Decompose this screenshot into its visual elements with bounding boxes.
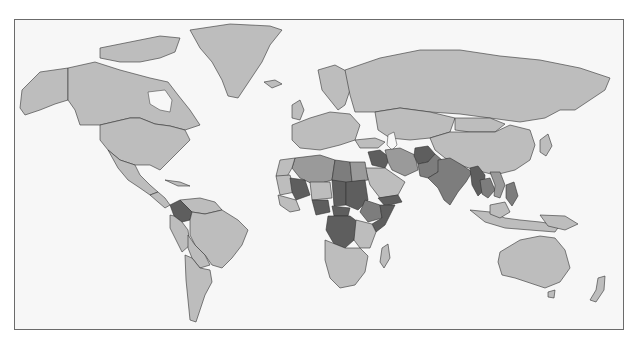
cuba[interactable] bbox=[165, 180, 190, 186]
australia[interactable] bbox=[498, 236, 570, 288]
turkey[interactable] bbox=[355, 138, 385, 148]
arctic-islands[interactable] bbox=[100, 36, 180, 62]
iceland[interactable] bbox=[264, 80, 282, 88]
south-america bbox=[170, 198, 248, 322]
central-america[interactable] bbox=[150, 192, 170, 208]
western-europe[interactable] bbox=[292, 112, 360, 150]
japan[interactable] bbox=[540, 134, 552, 156]
north-america bbox=[20, 36, 200, 208]
egypt[interactable] bbox=[350, 162, 368, 182]
world-map bbox=[0, 0, 636, 347]
new-zealand[interactable] bbox=[590, 276, 605, 302]
uk-ireland[interactable] bbox=[292, 100, 304, 120]
alaska[interactable] bbox=[20, 68, 68, 115]
niger[interactable] bbox=[310, 182, 332, 200]
nigeria[interactable] bbox=[312, 200, 330, 215]
tasmania[interactable] bbox=[548, 290, 555, 298]
madagascar[interactable] bbox=[380, 244, 390, 268]
greenland[interactable] bbox=[190, 24, 282, 98]
philippines[interactable] bbox=[506, 182, 518, 206]
mongolia[interactable] bbox=[455, 118, 505, 132]
thailand[interactable] bbox=[480, 178, 495, 198]
central-african-republic[interactable] bbox=[332, 206, 350, 216]
chad[interactable] bbox=[332, 180, 346, 206]
